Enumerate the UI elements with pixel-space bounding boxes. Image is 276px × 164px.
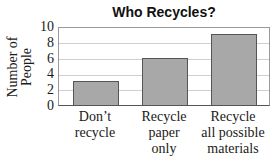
x-label-dont-recycle: Don’t recycle xyxy=(55,109,135,141)
bar-recycle-paper-only xyxy=(142,58,188,105)
y-tick-2: 2 xyxy=(47,83,54,97)
y-tick-4: 4 xyxy=(47,67,54,81)
plot-area xyxy=(58,27,270,106)
bar-recycle-all xyxy=(211,34,257,105)
x-label-recycle-all: Recycle all possible materials xyxy=(193,109,273,157)
y-tick-8: 8 xyxy=(47,36,54,50)
y-axis-label-line-1: Number of xyxy=(6,36,20,97)
bar-dont-recycle xyxy=(73,81,119,105)
x-label-recycle-paper-only: Recycle paper only xyxy=(124,109,204,157)
y-axis-label: Number of People xyxy=(2,28,38,106)
y-tick-6: 6 xyxy=(47,52,54,66)
y-tick-0: 0 xyxy=(47,99,54,113)
y-tick-10: 10 xyxy=(40,20,54,34)
chart-title: Who Recycles? xyxy=(58,4,270,20)
y-axis-label-line-2: People xyxy=(20,36,34,97)
